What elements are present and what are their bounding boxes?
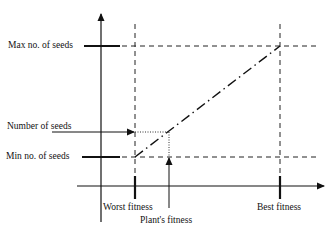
min-seeds-label: Min no. of seeds [6,151,69,162]
number-of-seeds-label: Number of seeds [7,121,71,132]
best-fitness-label: Best fitness [257,202,301,213]
seed-fitness-line [135,46,280,157]
plants-fitness-label: Plant's fitness [140,215,192,226]
max-seeds-label: Max no. of seeds [8,40,73,51]
seed-fitness-diagram [0,0,331,233]
worst-fitness-label: Worst fitness [103,202,153,213]
